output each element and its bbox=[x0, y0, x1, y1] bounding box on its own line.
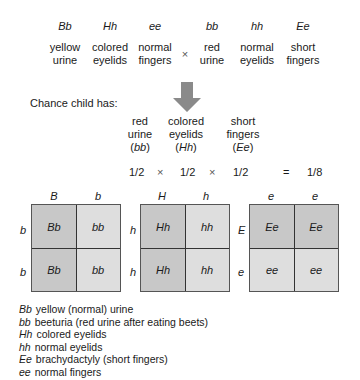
trait-line: fingers bbox=[281, 54, 325, 67]
legend-item: bbbeeturia (red urine after eating beets… bbox=[19, 316, 208, 329]
probability-1: 1/2 bbox=[129, 166, 144, 178]
legend-text: beeturia (red urine after eating beets) bbox=[35, 316, 208, 328]
trait-line: normal bbox=[235, 41, 279, 54]
divider bbox=[250, 248, 338, 249]
chance-col-fingers: short fingers (Ee) bbox=[220, 115, 266, 154]
trait-line: fingers bbox=[133, 54, 177, 67]
punnett-cell: Ee bbox=[294, 205, 338, 248]
trait-line: eyelids bbox=[88, 54, 132, 67]
legend-genotype: Bb bbox=[19, 303, 32, 315]
chance-line: short bbox=[220, 115, 266, 128]
trait-line: urine bbox=[193, 54, 231, 67]
punnett-cell: ee bbox=[294, 248, 338, 291]
result-probability: 1/8 bbox=[307, 166, 322, 178]
genotype: Ee bbox=[236, 141, 249, 153]
allele-top: B bbox=[32, 190, 76, 202]
trait-line: yellow bbox=[45, 41, 85, 54]
trait-line: eyelids bbox=[235, 54, 279, 67]
legend-text: normal fingers bbox=[35, 366, 102, 378]
allele-top: H bbox=[140, 190, 184, 202]
legend: Bbyellow (normal) urine bbbeeturia (red … bbox=[19, 303, 208, 378]
punnett-cell: Hh bbox=[141, 205, 185, 248]
punnett-cell: hh bbox=[185, 205, 229, 248]
chance-col-urine: red urine (bb) bbox=[120, 115, 160, 154]
parent1-trait-fingers: normal fingers bbox=[133, 41, 177, 67]
legend-item: Bbyellow (normal) urine bbox=[19, 303, 208, 316]
punnett-grid: Hh hh Hh hh bbox=[140, 204, 230, 292]
genotype: Hh bbox=[179, 141, 193, 153]
punnett-grid: Ee Ee ee ee bbox=[249, 204, 339, 292]
parent2-trait-eyelids: normal eyelids bbox=[235, 41, 279, 67]
punnett-cell: hh bbox=[185, 248, 229, 291]
times-symbol: × bbox=[209, 166, 215, 178]
legend-genotype: Ee bbox=[19, 353, 32, 365]
allele-side: h bbox=[130, 224, 136, 236]
allele-top: b bbox=[76, 190, 120, 202]
chance-line: eyelids bbox=[163, 128, 209, 141]
allele-side: h bbox=[130, 266, 136, 278]
chance-genotype: (Hh) bbox=[163, 141, 209, 154]
chance-line: colored bbox=[163, 115, 209, 128]
punnett-cell: Bb bbox=[32, 205, 76, 248]
cross-symbol: × bbox=[179, 48, 191, 60]
punnett-cell: Bb bbox=[32, 248, 76, 291]
allele-side: b bbox=[20, 266, 26, 278]
parent2-genotype-h: hh bbox=[237, 20, 277, 32]
parent1-genotype-h: Hh bbox=[90, 20, 130, 32]
parent2-trait-urine: red urine bbox=[193, 41, 231, 67]
parent2-trait-fingers: short fingers bbox=[281, 41, 325, 67]
legend-item: eenormal fingers bbox=[19, 366, 208, 379]
parent1-trait-urine: yellow urine bbox=[45, 41, 85, 67]
legend-genotype: Hh bbox=[19, 328, 32, 340]
trait-line: short bbox=[281, 41, 325, 54]
punnett-cell: Ee bbox=[250, 205, 294, 248]
punnett-cell: ee bbox=[250, 248, 294, 291]
chance-genotype: (Ee) bbox=[220, 141, 266, 154]
allele-side: b bbox=[20, 224, 26, 236]
probability-2: 1/2 bbox=[180, 166, 195, 178]
legend-item: Hhcolored eyelids bbox=[19, 328, 208, 341]
punnett-cell: bb bbox=[76, 248, 120, 291]
chance-line: red bbox=[120, 115, 160, 128]
legend-text: yellow (normal) urine bbox=[36, 303, 133, 315]
legend-text: normal eyelids bbox=[35, 341, 103, 353]
equals-symbol: = bbox=[283, 166, 289, 178]
trait-line: normal bbox=[133, 41, 177, 54]
punnett-cell: bb bbox=[76, 205, 120, 248]
legend-genotype: bb bbox=[19, 316, 31, 328]
chance-genotype: (bb) bbox=[120, 141, 160, 154]
legend-genotype: hh bbox=[19, 341, 31, 353]
punnett-cell: Hh bbox=[141, 248, 185, 291]
allele-top: e bbox=[249, 190, 293, 202]
chance-line: urine bbox=[120, 128, 160, 141]
allele-side: e bbox=[238, 266, 244, 278]
parent1-genotype-b: Bb bbox=[50, 20, 80, 32]
trait-line: colored bbox=[88, 41, 132, 54]
legend-genotype: ee bbox=[19, 366, 31, 378]
times-symbol: × bbox=[157, 166, 163, 178]
probability-3: 1/2 bbox=[233, 166, 248, 178]
allele-top: h bbox=[184, 190, 228, 202]
parent2-genotype-e: Ee bbox=[283, 20, 323, 32]
legend-item: Eebrachydactyly (short fingers) bbox=[19, 353, 208, 366]
allele-top: e bbox=[293, 190, 337, 202]
down-arrow-icon bbox=[173, 82, 201, 112]
parent2-genotype-b: bb bbox=[197, 20, 227, 32]
parent1-trait-eyelids: colored eyelids bbox=[88, 41, 132, 67]
legend-text: brachydactyly (short fingers) bbox=[36, 353, 168, 365]
genotype: bb bbox=[134, 141, 146, 153]
trait-line: red bbox=[193, 41, 231, 54]
legend-item: hhnormal eyelids bbox=[19, 341, 208, 354]
divider bbox=[32, 248, 120, 249]
punnett-grid: Bb bb Bb bb bbox=[31, 204, 121, 292]
chance-col-eyelids: colored eyelids (Hh) bbox=[163, 115, 209, 154]
legend-text: colored eyelids bbox=[36, 328, 106, 340]
chance-line: fingers bbox=[220, 128, 266, 141]
trait-line: urine bbox=[45, 54, 85, 67]
divider bbox=[141, 248, 229, 249]
allele-side: E bbox=[238, 224, 245, 236]
parent1-genotype-e: ee bbox=[135, 20, 175, 32]
chance-heading: Chance child has: bbox=[30, 97, 117, 109]
